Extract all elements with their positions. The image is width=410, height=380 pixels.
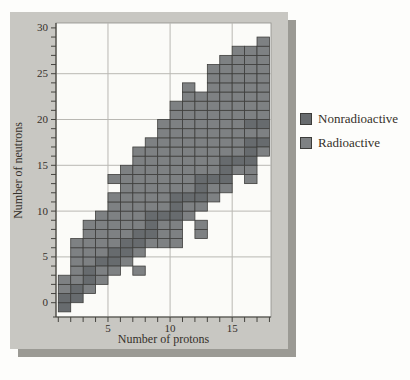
nuclide-cell-radioactive xyxy=(232,120,244,129)
nuclide-cell-radioactive xyxy=(133,211,145,220)
nuclide-cell-radioactive xyxy=(220,184,232,193)
nuclide-cell-radioactive xyxy=(195,101,207,110)
nuclide-cell-radioactive xyxy=(170,120,182,129)
nuclide-cell-radioactive xyxy=(207,193,219,202)
nuclide-cell-radioactive xyxy=(158,229,170,238)
nuclide-cell-radioactive xyxy=(232,138,244,147)
nuclide-cell-radioactive xyxy=(183,138,195,147)
nuclide-cell-radioactive xyxy=(120,165,132,174)
nuclide-cell-radioactive xyxy=(257,65,269,74)
nuclide-cell-nonradioactive xyxy=(120,248,132,257)
nuclide-cell-radioactive xyxy=(158,165,170,174)
nuclide-cell-radioactive xyxy=(257,92,269,101)
nuclide-cell-radioactive xyxy=(133,248,145,257)
nuclide-cell-radioactive xyxy=(96,229,108,238)
nuclide-cell-radioactive xyxy=(232,55,244,64)
nuclide-cell-radioactive xyxy=(145,174,157,183)
band-of-stability-chart: 51015051015202530 xyxy=(0,0,410,380)
nuclide-cell-nonradioactive xyxy=(220,174,232,183)
nuclide-cell-radioactive xyxy=(170,184,182,193)
nuclide-cell-radioactive xyxy=(183,83,195,92)
figure-stage: 51015051015202530 Number of neutrons Num… xyxy=(0,0,410,380)
nuclide-cell-radioactive xyxy=(158,202,170,211)
nuclide-cell-radioactive xyxy=(108,174,120,183)
nuclide-cell-radioactive xyxy=(207,74,219,83)
nuclide-cell-radioactive xyxy=(158,239,170,248)
nuclide-cell-radioactive xyxy=(195,129,207,138)
nuclide-cell-nonradioactive xyxy=(145,220,157,229)
nuclide-cell-radioactive xyxy=(170,101,182,110)
nuclide-cell-radioactive xyxy=(207,65,219,74)
nuclide-cell-nonradioactive xyxy=(71,294,83,303)
nuclide-cell-radioactive xyxy=(145,147,157,156)
nuclide-cell-radioactive xyxy=(145,138,157,147)
nuclide-cell-radioactive xyxy=(245,110,257,119)
nuclide-cell-radioactive xyxy=(207,147,219,156)
nuclide-cell-radioactive xyxy=(145,156,157,165)
legend-label-nonradioactive: Nonradioactive xyxy=(318,112,398,125)
nuclide-cell-radioactive xyxy=(220,110,232,119)
radioactive-swatch-icon xyxy=(300,137,312,149)
nuclide-cell-radioactive xyxy=(96,220,108,229)
nuclide-cell-radioactive xyxy=(257,37,269,46)
nuclide-cell-radioactive xyxy=(133,184,145,193)
nuclide-cell-radioactive xyxy=(133,266,145,275)
nuclide-cell-radioactive xyxy=(170,165,182,174)
nuclide-cell-radioactive xyxy=(108,193,120,202)
nuclide-cell-nonradioactive xyxy=(83,266,95,275)
nuclide-cell-nonradioactive xyxy=(170,193,182,202)
nuclide-cell-radioactive xyxy=(158,138,170,147)
x-axis-title: Number of protons xyxy=(56,332,271,347)
nuclide-cell-radioactive xyxy=(207,165,219,174)
nuclide-cell-nonradioactive xyxy=(245,147,257,156)
nuclide-cell-nonradioactive xyxy=(170,211,182,220)
nuclide-cell-radioactive xyxy=(108,266,120,275)
nuclide-cell-radioactive xyxy=(207,101,219,110)
nuclide-cell-radioactive xyxy=(158,220,170,229)
nuclide-cell-radioactive xyxy=(108,220,120,229)
nuclide-cell-nonradioactive xyxy=(195,184,207,193)
nuclide-cell-radioactive xyxy=(245,74,257,83)
nuclide-cell-radioactive xyxy=(145,202,157,211)
nuclide-cell-radioactive xyxy=(170,174,182,183)
nuclide-cell-radioactive xyxy=(158,156,170,165)
nuclide-cell-nonradioactive xyxy=(96,257,108,266)
nuclide-cell-radioactive xyxy=(257,46,269,55)
nuclide-cell-radioactive xyxy=(207,184,219,193)
nuclide-cell-radioactive xyxy=(195,138,207,147)
nuclide-cell-radioactive xyxy=(257,83,269,92)
nuclide-cell-radioactive xyxy=(133,174,145,183)
nuclide-cell-radioactive xyxy=(207,120,219,129)
nuclide-cell-radioactive xyxy=(120,193,132,202)
nuclide-cell-nonradioactive xyxy=(120,239,132,248)
nuclide-cell-nonradioactive xyxy=(195,174,207,183)
nuclide-cell-radioactive xyxy=(71,248,83,257)
nuclide-cell-nonradioactive xyxy=(145,211,157,220)
nuclide-cell-radioactive xyxy=(195,220,207,229)
nuclide-cell-radioactive xyxy=(257,129,269,138)
nuclide-cell-radioactive xyxy=(83,284,95,293)
nuclide-cell-radioactive xyxy=(220,129,232,138)
nuclide-cell-radioactive xyxy=(158,147,170,156)
nuclide-cell-radioactive xyxy=(108,202,120,211)
legend: Nonradioactive Radioactive xyxy=(300,112,408,160)
nuclide-cell-nonradioactive xyxy=(207,174,219,183)
nuclide-cell-nonradioactive xyxy=(220,165,232,174)
nuclide-cell-radioactive xyxy=(183,165,195,174)
nuclide-cell-radioactive xyxy=(232,74,244,83)
nuclide-cell-nonradioactive xyxy=(133,239,145,248)
nuclide-cell-radioactive xyxy=(133,156,145,165)
nuclide-cell-radioactive xyxy=(170,138,182,147)
nuclide-cell-radioactive xyxy=(120,257,132,266)
nuclide-cell-radioactive xyxy=(257,147,269,156)
nuclide-cell-radioactive xyxy=(183,92,195,101)
nuclide-cell-radioactive xyxy=(158,129,170,138)
nuclide-cell-radioactive xyxy=(120,220,132,229)
nuclide-cell-radioactive xyxy=(220,101,232,110)
nuclide-cell-radioactive xyxy=(83,239,95,248)
nuclide-cell-nonradioactive xyxy=(232,156,244,165)
legend-item-nonradioactive: Nonradioactive xyxy=(300,112,408,125)
nuclide-cell-radioactive xyxy=(183,110,195,119)
nuclide-cell-radioactive xyxy=(245,55,257,64)
nuclide-cell-nonradioactive xyxy=(158,211,170,220)
